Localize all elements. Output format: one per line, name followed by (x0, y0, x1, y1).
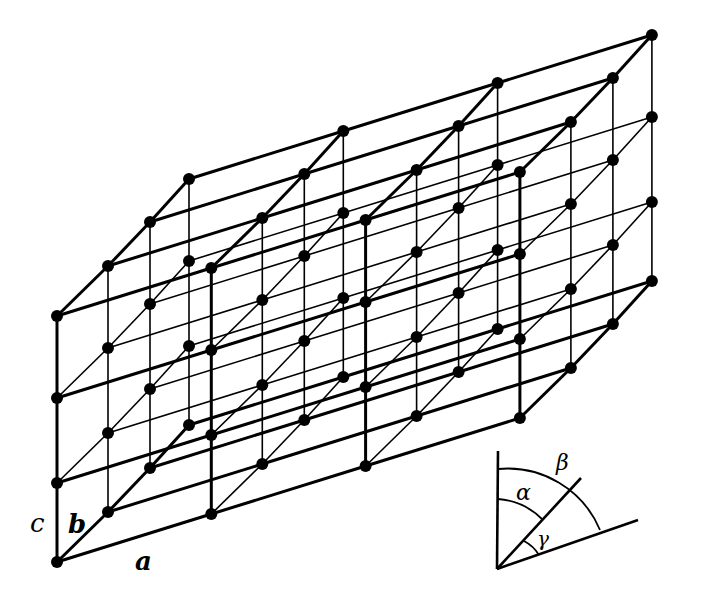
lattice-node (183, 255, 195, 267)
axis-label-a: a (135, 546, 152, 576)
lattice-edge-a (57, 350, 211, 398)
lattice-node (337, 125, 349, 137)
lattice-node (102, 506, 114, 518)
axis-label-c: c (30, 508, 45, 538)
lattice-node (144, 216, 156, 228)
lattice-node (646, 29, 658, 41)
lattice-node (183, 340, 195, 352)
lattice-node (514, 412, 526, 424)
lattice-node (453, 366, 465, 378)
lattice-node (565, 198, 577, 210)
lattice-node (565, 283, 577, 295)
lattice-node (102, 342, 114, 354)
lattice-node (607, 318, 619, 330)
lattice-edge-a (57, 435, 211, 483)
lattice-node (607, 239, 619, 251)
lattice-node (492, 244, 504, 256)
lattice-node (51, 477, 63, 489)
angle-label-alpha: α (516, 480, 531, 505)
angle-label-beta: β (555, 450, 569, 475)
lattice-thick-edges (57, 35, 652, 562)
lattice-node (256, 458, 268, 470)
lattice-node (514, 166, 526, 178)
lattice-node (102, 260, 114, 272)
lattice-node (205, 262, 217, 274)
lattice-node (51, 556, 63, 568)
lattice-node (646, 111, 658, 123)
lattice-node (360, 460, 372, 472)
lattice-node (256, 294, 268, 306)
lattice-node (453, 202, 465, 214)
lattice-node (144, 462, 156, 474)
lattice-node (565, 116, 577, 128)
lattice-node (411, 164, 423, 176)
lattice-node (453, 287, 465, 299)
beta-arc (498, 469, 600, 530)
lattice-node (646, 275, 658, 287)
lattice-node (51, 310, 63, 322)
lattice-node (514, 333, 526, 345)
lattice-node (298, 168, 310, 180)
lattice-node (565, 362, 577, 374)
angle-label-gamma: γ (537, 527, 549, 551)
lattice-node (298, 414, 310, 426)
lattice-node (256, 379, 268, 391)
lattice-node (183, 419, 195, 431)
lattice-node (492, 323, 504, 335)
lattice-node (298, 250, 310, 262)
lattice-node (337, 371, 349, 383)
lattice-node (492, 159, 504, 171)
lattice-node (492, 77, 504, 89)
lattice-node (360, 381, 372, 393)
lattice-node (205, 429, 217, 441)
lattice-node (411, 410, 423, 422)
inset-c-axis (497, 451, 498, 569)
lattice-node (205, 508, 217, 520)
lattice-node (360, 214, 372, 226)
lattice-node (514, 248, 526, 260)
lattice-node (646, 196, 658, 208)
lattice-node (607, 154, 619, 166)
lattice-node (102, 427, 114, 439)
lattice-node (256, 212, 268, 224)
lattice-node (360, 296, 372, 308)
lattice-thin-edges (57, 35, 652, 514)
lattice-node (205, 344, 217, 356)
lattice-node (183, 173, 195, 185)
lattice-node (411, 246, 423, 258)
lattice-node (337, 207, 349, 219)
lattice-node (337, 292, 349, 304)
lattice-node (298, 335, 310, 347)
lattice-node (411, 331, 423, 343)
lattice-node (144, 383, 156, 395)
lattice-node (144, 298, 156, 310)
lattice-diagram: c b a α β γ (0, 0, 701, 609)
lattice-node (51, 392, 63, 404)
axis-label-b: b (68, 509, 86, 539)
lattice-node (453, 120, 465, 132)
lattice-node (607, 72, 619, 84)
